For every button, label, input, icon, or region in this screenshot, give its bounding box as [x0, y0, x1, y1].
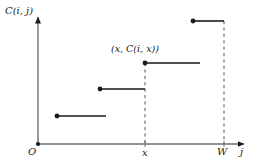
step-marker-1	[55, 114, 60, 119]
x-axis-label: j	[240, 147, 243, 157]
step-marker-4	[191, 19, 196, 24]
origin-dot	[36, 142, 40, 146]
step-function-figure: C(i, j) j O x W (x, C(i, x))	[0, 0, 257, 166]
y-axis-label: C(i, j)	[5, 6, 33, 16]
step-marker-3	[143, 61, 148, 66]
step-marker-2	[98, 87, 103, 92]
x-tick-label-x: x	[142, 148, 148, 158]
point-annotation-label: (x, C(i, x))	[111, 44, 159, 54]
origin-label: O	[28, 147, 36, 157]
x-tick-label-w: W	[217, 147, 227, 157]
figure-canvas	[0, 0, 257, 166]
